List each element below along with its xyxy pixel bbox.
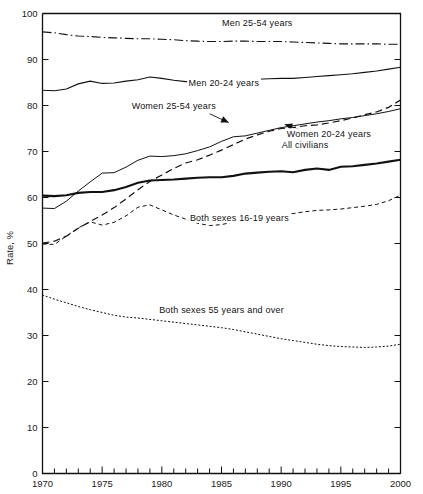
x-tick-label: 1990	[271, 478, 292, 489]
y-tick-label: 70	[27, 146, 38, 157]
y-tick-label: 20	[27, 376, 38, 387]
series-label: Women 25-54 years	[132, 101, 217, 111]
series-label: Both sexes 55 years and over	[159, 305, 284, 315]
y-tick-label: 60	[27, 192, 38, 203]
series-label: All civilians	[282, 140, 329, 150]
x-tick-label: 1995	[330, 478, 351, 489]
y-tick-label: 30	[27, 330, 38, 341]
series-line	[43, 109, 401, 209]
y-tick-label: 50	[27, 238, 38, 249]
line-chart-canvas: 0102030405060708090100197019751980198519…	[0, 0, 423, 494]
y-tick-label: 10	[27, 422, 38, 433]
x-tick-label: 1985	[211, 478, 232, 489]
x-tick-label: 2000	[390, 478, 411, 489]
series-line	[43, 295, 401, 347]
x-tick-label: 1975	[92, 478, 113, 489]
series-label: Men 25-54 years	[222, 18, 293, 28]
series-labels-layer: Men 25-54 yearsMen 20-24 yearsWomen 25-5…	[130, 18, 373, 315]
y-tick-label: 90	[27, 54, 38, 65]
series-line	[43, 32, 401, 44]
y-tick-label: 100	[22, 8, 38, 19]
x-tick-label: 1980	[151, 478, 172, 489]
series-label: Both sexes 16-19 years	[190, 213, 289, 223]
y-tick-label: 80	[27, 100, 38, 111]
series-label: Men 20-24 years	[189, 78, 260, 88]
series-label: Women 20-24 years	[287, 129, 372, 139]
y-tick-label: 40	[27, 284, 38, 295]
y-axis-title: Rate, %	[4, 231, 15, 265]
chart-figure: 0102030405060708090100197019751980198519…	[0, 0, 423, 494]
x-tick-label: 1970	[32, 478, 53, 489]
